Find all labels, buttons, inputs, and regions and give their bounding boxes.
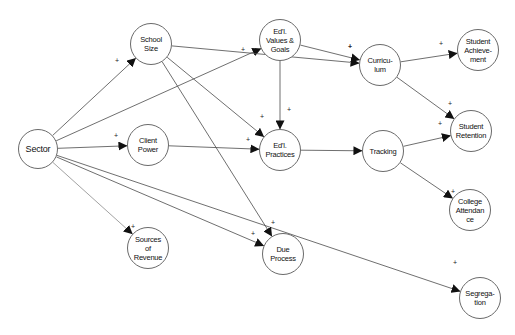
edges-layer <box>0 0 515 335</box>
node-label: Ed'l. Values & Goals <box>266 27 294 54</box>
edge-tracking-to-student-retention <box>404 136 451 147</box>
node-label: Student Achieve- ment <box>464 37 492 64</box>
edge-sign-label: + <box>271 219 275 226</box>
node-student-achievement: Student Achieve- ment <box>457 29 499 71</box>
edge-sign-label: + <box>448 100 452 107</box>
edge-sector-to-sources-of-revenue <box>53 162 132 234</box>
node-label: Student Retention <box>456 122 486 140</box>
node-label: College Attendan ce <box>456 197 484 224</box>
edge-sector-to-segregation <box>57 155 460 291</box>
edge-sign-label: + <box>438 120 442 127</box>
edge-sector-to-client-power <box>58 146 127 149</box>
edge-sign-label: + <box>114 132 118 139</box>
node-segregation: Segrega- tion <box>459 277 501 319</box>
path-diagram: SectorSchool SizeClient PowerSources of … <box>0 0 515 335</box>
node-label: Curricu- lum <box>367 56 392 74</box>
node-edl-practices: Ed'l. Practices <box>259 129 301 171</box>
node-curriculum: Curricu- lum <box>359 44 401 86</box>
node-label: Sources of Revenue <box>134 235 163 262</box>
edge-sign-label: + <box>251 230 255 237</box>
node-due-process: Due Process <box>262 233 304 275</box>
edge-sign-label: + <box>451 188 455 195</box>
edge-sign-label: + <box>439 40 443 47</box>
node-label: Tracking <box>370 147 397 156</box>
edge-sign-label: + <box>453 259 457 266</box>
edge-sign-label: + <box>246 136 250 143</box>
node-label: Ed'l. Practices <box>265 141 294 159</box>
edge-sign-label: + <box>348 43 352 50</box>
node-student-retention: Student Retention <box>450 110 492 152</box>
node-client-power: Client Power <box>127 124 169 166</box>
edge-tracking-to-college-attendance <box>400 163 452 198</box>
node-label: Sector <box>26 145 51 154</box>
node-sector: Sector <box>18 129 58 169</box>
node-label: Segrega- tion <box>465 289 494 307</box>
node-label: Client Power <box>138 136 158 154</box>
node-label: School Size <box>140 35 162 53</box>
edge-sign-label: + <box>131 223 135 230</box>
edge-sign-label: + <box>241 46 245 53</box>
node-college-attendance: College Attendan ce <box>449 189 491 231</box>
node-tracking: Tracking <box>362 130 404 172</box>
edge-sign-label: + <box>115 57 119 64</box>
node-sources-of-revenue: Sources of Revenue <box>127 227 169 269</box>
node-label: Due Process <box>270 245 296 263</box>
edge-edl-practices-to-tracking <box>301 150 362 151</box>
node-school-size: School Size <box>130 23 172 65</box>
edge-client-power-to-edl-practices <box>169 146 259 149</box>
edge-sign-label: + <box>287 106 291 113</box>
node-edl-values-goals: Ed'l. Values & Goals <box>259 19 301 61</box>
edge-curriculum-to-student-achievement <box>401 53 457 62</box>
edge-sign-label: + <box>260 113 264 120</box>
edge-curriculum-to-student-retention <box>397 77 454 118</box>
